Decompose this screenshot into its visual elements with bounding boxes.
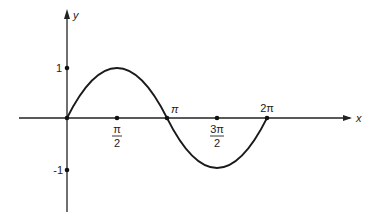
tick-y-neg-one: [65, 168, 70, 173]
y-axis-label: y: [72, 9, 80, 21]
tick-two-pi: [265, 116, 270, 121]
tick-three-pi-half: [215, 116, 220, 121]
y-axis-arrow-icon: [64, 9, 70, 19]
tick-pi-half: [115, 116, 120, 121]
x-axis-label: x: [355, 112, 362, 124]
pi-label: π: [171, 103, 179, 115]
three-pi-half-numerator: 3π: [210, 123, 224, 135]
three-pi-half-denominator: 2: [214, 137, 220, 149]
y-neg-one-label: -1: [53, 164, 63, 176]
pi-half-numerator: π: [113, 123, 121, 135]
y-one-label: 1: [56, 62, 62, 74]
tick-pi: [165, 116, 170, 121]
origin-point: [65, 116, 70, 121]
two-pi-label: 2π: [260, 102, 274, 114]
pi-half-denominator: 2: [114, 137, 120, 149]
sine-chart: x y π 2 π 3π 2 2π 1 -1: [0, 0, 371, 221]
x-axis-arrow-icon: [343, 115, 352, 121]
tick-y-one: [65, 66, 70, 71]
